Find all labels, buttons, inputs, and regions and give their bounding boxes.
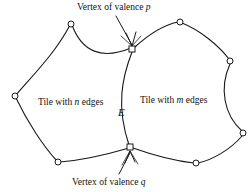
tile-m-edge-bottom-right [198,136,242,163]
vertex-n-bottom [55,159,61,165]
shared-edge-E-path [122,52,132,145]
tiling-diagram: Vertex of valence p Vertex of valence q … [0,0,249,192]
label-valence-p-symbol: p [146,2,151,12]
vertex-m-bottom [193,160,199,166]
label-tile-m: Tile with m edges [140,96,208,106]
tile-n-outline [16,25,131,162]
tile-n-edge-top-left [16,25,70,95]
vertex-n-left [12,93,18,99]
leader-to-vertex-p [116,16,141,46]
vertex-q-marker [127,144,133,150]
tile-m-edge-top-left [135,22,178,47]
label-tile-n: Tile with n edges [38,98,103,108]
vertex-m-top [177,19,183,25]
label-shared-edge-e: E [118,107,125,118]
label-vertex-valence-q: Vertex of valence q [72,178,146,188]
tile-m-edge-bottom-left [133,148,194,163]
label-tile-n-suffix: edges [79,97,103,107]
label-vertex-valence-p: Vertex of valence p [77,3,151,13]
diagram-canvas [0,0,249,192]
label-tile-n-prefix: Tile with [38,97,75,107]
label-valence-p-prefix: Vertex of valence [77,2,146,12]
vertex-p-marker [129,46,135,52]
vertex-m-right-lower [240,130,246,136]
tile-m-edge-top-right [182,23,229,59]
arrowhead-p [126,32,136,46]
tile-m-edge-right [224,64,242,131]
vertex-n-top [68,21,74,27]
label-tile-m-prefix: Tile with [140,95,177,105]
tile-m-outline [133,22,242,163]
label-tile-m-suffix: edges [183,95,207,105]
tile-n-edge-bottom-right [60,148,129,162]
label-valence-q-prefix: Vertex of valence [72,177,141,187]
vertex-m-right-upper [227,58,233,64]
label-valence-q-symbol: q [141,177,146,187]
leader-to-vertex-q [119,151,138,174]
tile-n-edge-top-right [72,25,131,53]
